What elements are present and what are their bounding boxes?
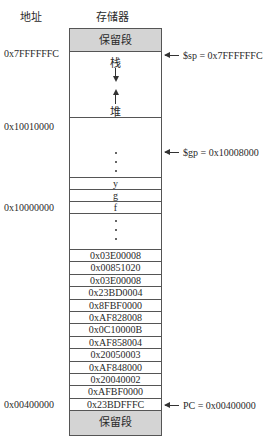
reserved-segment-top: 保留段: [69, 28, 162, 52]
address-column-header: 地址: [20, 8, 42, 24]
reserved-segment-bottom: 保留段: [69, 411, 162, 436]
data-var-f: f: [69, 202, 162, 214]
pc-pointer: PC = 0x00400000: [165, 400, 256, 411]
arrow-down-icon: [113, 76, 119, 82]
instruction-row: 0x20050003: [69, 349, 162, 361]
ellipsis-icon: [114, 220, 118, 247]
instruction-row: 0x0C10000B: [69, 324, 162, 336]
arrow-left-icon: [165, 405, 179, 406]
gp-pointer: $gp = 0x10008000: [165, 147, 259, 158]
instruction-row: 0xAF848000: [69, 362, 162, 374]
address-data-base: 0x10000000: [4, 202, 64, 213]
instruction-row: 0x8FBF0000: [69, 300, 162, 312]
instruction-row: 0x20040002: [69, 374, 162, 386]
instruction-row: 0xAF858004: [69, 337, 162, 349]
gp-label: $gp = 0x10008000: [183, 147, 259, 158]
sp-pointer: $sp = 0x7FFFFFFC: [165, 50, 263, 61]
heap-label: 堆: [69, 103, 162, 119]
data-var-g: g: [69, 190, 162, 202]
instruction-row: 0x23BD0004: [69, 287, 162, 299]
instruction-row: 0x00851020: [69, 262, 162, 274]
instruction-row: 0xAF828008: [69, 312, 162, 324]
address-stack-top: 0x7FFFFFFC: [4, 48, 64, 59]
instruction-row: 0x03E00008: [69, 250, 162, 262]
ellipsis-icon: [114, 152, 118, 179]
address-text-base: 0x00400000: [4, 399, 64, 410]
sp-label: $sp = 0x7FFFFFFC: [183, 50, 263, 61]
address-heap-base: 0x10010000: [4, 121, 64, 132]
instruction-row: 0x03E00008: [69, 275, 162, 287]
memory-column-header: 存储器: [96, 8, 129, 24]
data-var-y: y: [69, 178, 162, 190]
pc-label: PC = 0x00400000: [183, 400, 256, 411]
arrow-left-icon: [165, 55, 179, 56]
arrow-left-icon: [165, 152, 179, 153]
instruction-row: 0xAFBF0000: [69, 386, 162, 398]
instruction-row: 0x23BDFFFC: [69, 399, 162, 411]
